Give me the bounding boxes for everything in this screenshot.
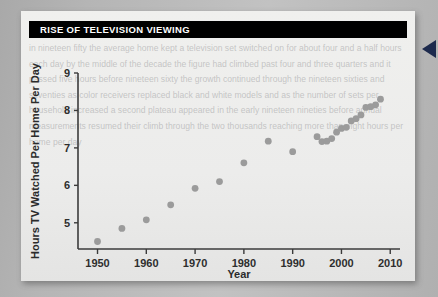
figure-panel: in nineteen fifty the average home kept …	[21, 11, 415, 281]
data-point	[377, 96, 384, 103]
data-point	[240, 159, 247, 166]
x-tick-label: 1960	[134, 257, 158, 269]
data-point	[314, 133, 321, 140]
data-point	[328, 135, 335, 142]
left-triangle-pointer-icon	[422, 40, 436, 58]
data-point	[143, 216, 150, 223]
x-tick-label: 1950	[85, 257, 109, 269]
data-point	[216, 178, 223, 185]
page-background: the television set became a fixture of t…	[0, 0, 438, 297]
data-point	[167, 201, 174, 208]
data-point	[94, 238, 101, 245]
data-point	[119, 225, 126, 232]
data-point	[372, 101, 379, 108]
x-tick-label: 1970	[183, 257, 207, 269]
x-tick-label: 2000	[329, 257, 353, 269]
data-point	[265, 138, 272, 145]
x-axis-ticks: 1950196019701980199020002010	[85, 249, 402, 269]
plot-axes	[78, 73, 400, 249]
scatter-plot: 56789 1950196019701980199020002010 Year …	[21, 38, 415, 281]
y-tick-label: 9	[64, 67, 70, 79]
y-tick-label: 5	[64, 217, 70, 229]
data-point	[343, 124, 350, 131]
y-tick-label: 6	[64, 179, 70, 191]
data-points	[94, 96, 384, 245]
chart-title-bar: RISE OF TELEVISION VIEWING	[29, 21, 407, 38]
x-axis-title: Year	[227, 268, 251, 280]
data-point	[289, 148, 296, 155]
y-tick-label: 7	[64, 142, 70, 154]
y-axis-ticks: 56789	[64, 67, 78, 229]
x-tick-label: 2010	[378, 257, 402, 269]
x-tick-label: 1990	[280, 257, 304, 269]
plot-svg: 56789 1950196019701980199020002010 Year …	[21, 38, 415, 281]
y-axis-title: Hours TV Watched Per Home Per Day	[29, 62, 41, 259]
data-point	[358, 112, 365, 119]
data-point	[192, 185, 199, 192]
chart-title: RISE OF TELEVISION VIEWING	[29, 24, 190, 35]
y-tick-label: 8	[64, 104, 70, 116]
